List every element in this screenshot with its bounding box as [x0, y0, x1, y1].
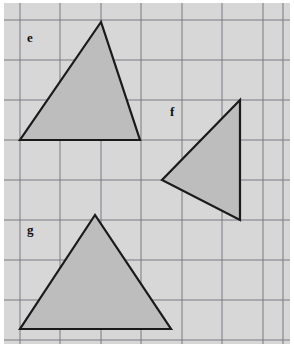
triangle-g: [20, 215, 171, 329]
triangle-e: [20, 22, 140, 140]
shape-label-f: f: [170, 105, 174, 118]
grid-canvas: [0, 0, 294, 347]
shapes-layer: [20, 22, 240, 329]
triangle-grid-figure: e f g: [0, 0, 294, 347]
shape-label-g: g: [27, 223, 34, 236]
shape-label-e: e: [27, 31, 33, 44]
